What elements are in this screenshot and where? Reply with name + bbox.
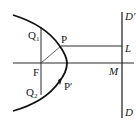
label-L: L [124, 42, 131, 54]
label-M: M [108, 65, 119, 77]
label-D: D [124, 106, 133, 118]
label-P: P [61, 33, 67, 45]
label-Q2: Q2 [26, 86, 38, 100]
label-P-prime: P′ [64, 80, 73, 92]
focal-radius-FP [41, 46, 61, 63]
label-Q1: Q1 [28, 29, 40, 43]
label-F: F [33, 66, 39, 78]
parabola-diagram: Q1 P F Q2 P′ L M D′ D [0, 0, 136, 120]
label-D-prime: D′ [124, 10, 136, 22]
